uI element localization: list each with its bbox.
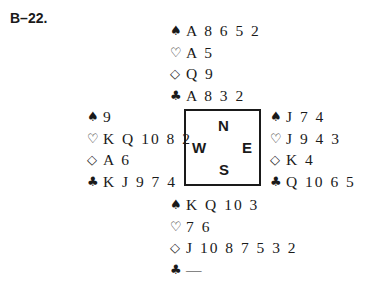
south-clubs: ♣— (170, 259, 298, 281)
heart-icon: ♡ (170, 216, 186, 238)
diamond-icon: ◇ (170, 63, 186, 85)
diamond-icon: ◇ (270, 149, 286, 171)
club-icon: ♣ (270, 171, 286, 193)
west-clubs: ♣K J 9 7 4 (87, 171, 192, 193)
north-hand: ♠A 8 6 5 2 ♡A 5 ◇Q 9 ♣A 8 3 2 (170, 20, 261, 106)
north-clubs: ♣A 8 3 2 (170, 85, 261, 107)
west-hearts: ♡K Q 10 8 2 (87, 128, 192, 150)
south-diamonds: ◇J 10 8 7 5 3 2 (170, 237, 298, 259)
club-icon: ♣ (170, 85, 186, 107)
east-clubs: ♣Q 10 6 5 (270, 171, 356, 193)
north-diamonds: ◇Q 9 (170, 63, 261, 85)
east-diamonds: ◇K 4 (270, 149, 356, 171)
west-diamonds: ◇A 6 (87, 149, 192, 171)
compass-east: E (242, 139, 252, 156)
diamond-icon: ◇ (87, 149, 103, 171)
problem-title: B–22. (10, 10, 47, 26)
south-hand: ♠K Q 10 3 ♡7 6 ◇J 10 8 7 5 3 2 ♣— (170, 194, 298, 280)
spade-icon: ♠ (87, 106, 103, 128)
north-spades: ♠A 8 6 5 2 (170, 20, 261, 42)
club-icon: ♣ (170, 259, 186, 281)
compass-west: W (192, 139, 206, 156)
east-hand: ♠J 7 4 ♡J 9 4 3 ◇K 4 ♣Q 10 6 5 (270, 106, 356, 192)
compass-box: N W E S (184, 109, 261, 186)
north-hearts: ♡A 5 (170, 42, 261, 64)
diamond-icon: ◇ (170, 237, 186, 259)
heart-icon: ♡ (270, 128, 286, 150)
east-hearts: ♡J 9 4 3 (270, 128, 356, 150)
spade-icon: ♠ (170, 194, 186, 216)
east-spades: ♠J 7 4 (270, 106, 356, 128)
south-spades: ♠K Q 10 3 (170, 194, 298, 216)
compass-north: N (218, 117, 229, 134)
compass-south: S (219, 161, 229, 178)
south-hearts: ♡7 6 (170, 216, 298, 238)
club-icon: ♣ (87, 171, 103, 193)
heart-icon: ♡ (170, 42, 186, 64)
west-spades: ♠9 (87, 106, 192, 128)
west-hand: ♠9 ♡K Q 10 8 2 ◇A 6 ♣K J 9 7 4 (87, 106, 192, 192)
spade-icon: ♠ (170, 20, 186, 42)
heart-icon: ♡ (87, 128, 103, 150)
spade-icon: ♠ (270, 106, 286, 128)
